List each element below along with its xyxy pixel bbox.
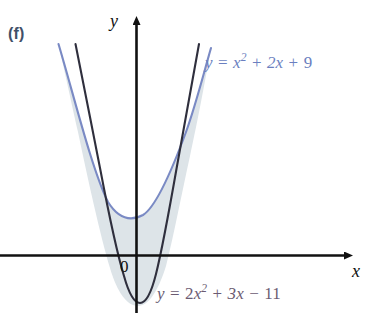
equation-upper-op1: + bbox=[251, 53, 263, 72]
equation-upper-op2: + bbox=[288, 53, 300, 72]
shaded-region bbox=[59, 44, 212, 306]
y-axis-label: y bbox=[110, 12, 118, 30]
parabola-figure: (f) y x 0 y = x2 + 2x + 9 y = 2x2 + 3x −… bbox=[0, 0, 370, 317]
part-label: (f) bbox=[8, 26, 25, 42]
equation-lower-term1-coefficient: 2 bbox=[185, 284, 194, 303]
equation-lower-term1-exponent: 2 bbox=[201, 282, 207, 295]
equation-upper-term3: 9 bbox=[304, 53, 313, 72]
equation-upper-equals: = bbox=[217, 53, 229, 72]
equation-lower-op1: + bbox=[212, 284, 224, 303]
equation-upper-parabola: y = x2 + 2x + 9 bbox=[205, 52, 312, 71]
equation-upper-term1-exponent: 2 bbox=[241, 51, 247, 64]
equation-lower-term3: 11 bbox=[264, 284, 281, 303]
equation-lower-parabola: y = 2x2 + 3x − 11 bbox=[157, 283, 281, 302]
equation-upper-term2: 2x bbox=[267, 53, 283, 72]
plot-canvas bbox=[0, 0, 370, 317]
x-axis-label: x bbox=[352, 262, 360, 280]
equation-lower-equals: = bbox=[169, 284, 181, 303]
origin-label: 0 bbox=[120, 258, 129, 275]
equation-lower-term2: 3x bbox=[228, 284, 244, 303]
equation-lower-lhs: y bbox=[157, 284, 165, 303]
equation-upper-term1-var: x bbox=[233, 53, 241, 72]
equation-upper-lhs: y bbox=[205, 53, 213, 72]
equation-lower-op2: − bbox=[248, 284, 260, 303]
